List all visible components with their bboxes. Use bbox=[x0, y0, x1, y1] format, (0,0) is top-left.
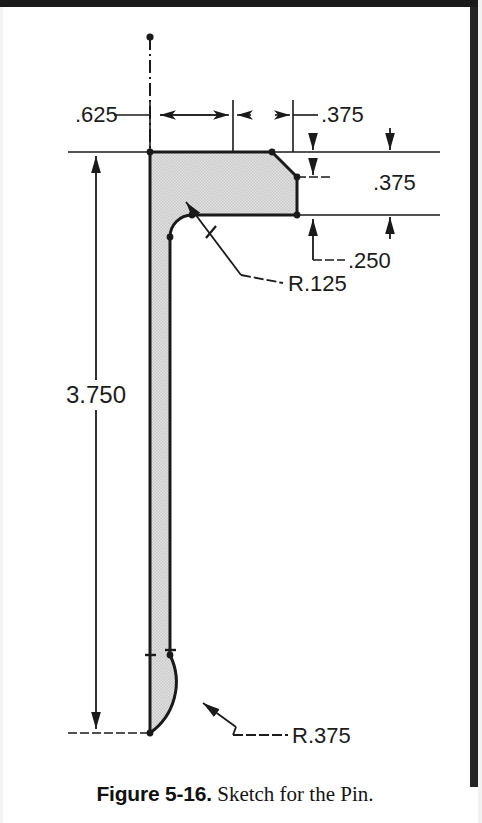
dimension-label-375-height: .375 bbox=[373, 170, 416, 195]
vertex-fillet-end bbox=[167, 234, 174, 241]
technical-drawing: .625 .375 .375 .250 3.750 bbox=[0, 0, 482, 823]
figure-caption: Figure 5-16. Sketch for the Pin. bbox=[0, 782, 470, 807]
dimension-label-375-width: .375 bbox=[321, 102, 364, 127]
leader-r125-shelf bbox=[241, 275, 283, 283]
figure-caption-text: Sketch for the Pin. bbox=[212, 782, 374, 806]
leader-r375-arrow bbox=[203, 703, 236, 727]
dimension-label-250: .250 bbox=[348, 248, 391, 273]
figure-number: Figure 5-16. bbox=[96, 782, 211, 805]
radius-r375-group: R.375 bbox=[203, 703, 351, 748]
dimension-label-3750: 3.750 bbox=[66, 381, 126, 408]
radius-label-r125: R.125 bbox=[288, 271, 347, 296]
figure-page: .625 .375 .375 .250 3.750 bbox=[0, 0, 482, 823]
leader-r375-bend bbox=[233, 727, 236, 735]
part-profile bbox=[145, 149, 300, 737]
radius-label-r375: R.375 bbox=[292, 723, 351, 748]
dimension-label-625: .625 bbox=[75, 102, 118, 127]
dimension-overall-length-group: 3.750 bbox=[66, 152, 150, 733]
vertex-round-start bbox=[167, 652, 174, 659]
